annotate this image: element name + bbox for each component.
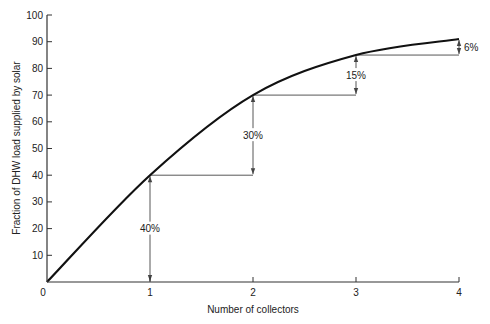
x-tick-label: 4 [456, 287, 462, 298]
x-tick-label: 2 [250, 287, 256, 298]
y-tick-label: 10 [32, 250, 44, 261]
arrow-down-icon [354, 88, 358, 94]
y-tick-label: 40 [32, 170, 44, 181]
increment-label: 15% [346, 70, 366, 81]
y-tick-label: 50 [32, 143, 44, 154]
arrow-up-icon [354, 56, 358, 62]
origin-label: 0 [40, 287, 46, 298]
increment-annotation: 6% [457, 40, 479, 54]
y-tick-label: 60 [32, 116, 44, 127]
increment-annotation: 30% [242, 95, 356, 174]
increment-annotation: 40% [139, 175, 253, 281]
arrow-up-icon [457, 40, 461, 46]
increment-label: 6% [464, 42, 479, 53]
axes: 10203040506070809010001234 [26, 10, 462, 299]
increment-annotation: 15% [345, 55, 459, 94]
arrow-down-icon [457, 48, 461, 54]
y-tick-label: 20 [32, 223, 44, 234]
chart-canvas: 40%30%15%6% 10203040506070809010001234 N… [0, 0, 490, 324]
y-tick-label: 100 [26, 10, 43, 21]
y-tick-label: 80 [32, 63, 44, 74]
y-tick-label: 90 [32, 36, 44, 47]
increment-label: 30% [243, 130, 263, 141]
increment-label: 40% [140, 223, 160, 234]
x-axis-title: Number of collectors [207, 304, 299, 315]
x-tick-label: 1 [147, 287, 153, 298]
y-tick-label: 30 [32, 196, 44, 207]
arrow-down-icon [251, 168, 255, 174]
x-tick-label: 3 [353, 287, 359, 298]
increment-annotations: 40%30%15%6% [139, 40, 479, 281]
y-axis-title: Fraction of DHW load supplied by solar [11, 61, 22, 235]
y-tick-label: 70 [32, 90, 44, 101]
